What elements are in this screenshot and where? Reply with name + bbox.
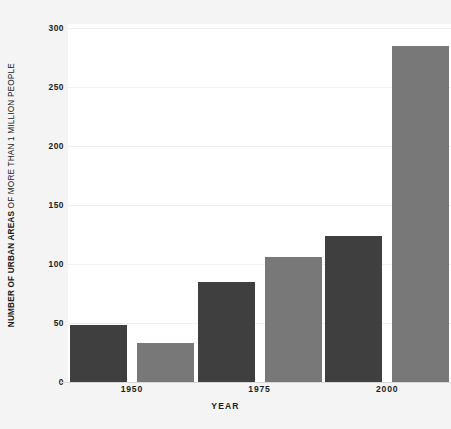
bars-layer: [68, 24, 451, 382]
bar-1975-light-series: [265, 257, 322, 382]
y-axis-tick-150: 150: [28, 201, 64, 209]
y-axis-title-bold: NUMBER OF URBAN AREAS: [7, 211, 16, 327]
bar-2000-light-series: [392, 46, 449, 382]
bar-chart: NUMBER OF URBAN AREAS OF MORE THAN 1 MIL…: [0, 0, 451, 429]
bar-1975-dark-series: [198, 282, 255, 382]
bar-1950-light-series: [137, 343, 194, 382]
y-axis-tick-50: 50: [28, 319, 64, 327]
y-axis-tick-300: 300: [28, 24, 64, 32]
x-axis-tick-2000: 2000: [376, 385, 398, 394]
x-axis-title: YEAR: [0, 401, 451, 411]
x-axis-tick-labels: 195019752000: [0, 385, 451, 401]
y-axis-title: NUMBER OF URBAN AREAS OF MORE THAN 1 MIL…: [0, 0, 24, 390]
y-axis-tick-250: 250: [28, 83, 64, 91]
x-axis-tick-1950: 1950: [121, 385, 143, 394]
x-axis-tick-1975: 1975: [248, 385, 270, 394]
bar-1950-dark-series: [70, 325, 127, 382]
bar-2000-dark-series: [325, 236, 382, 382]
y-axis-tick-100: 100: [28, 260, 64, 268]
y-axis-tick-200: 200: [28, 142, 64, 150]
y-axis-tick-labels: 050100150200250300: [28, 0, 64, 429]
y-axis-title-light: OF MORE THAN 1 MILLION PEOPLE: [7, 63, 16, 211]
x-axis-line: [60, 382, 451, 383]
